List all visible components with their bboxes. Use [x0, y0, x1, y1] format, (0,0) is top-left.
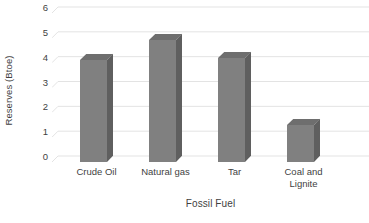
bar-front-face [80, 60, 107, 162]
bar-front-face [218, 58, 245, 162]
y-axis-tick-label: 3 [26, 78, 48, 88]
x-axis-category-label-line: Lignite [269, 178, 338, 190]
y-axis-title: Reserves (Btoe) [0, 0, 16, 180]
x-axis-category-label: Coal andLignite [269, 166, 338, 189]
y-axis-tick-label: 5 [26, 28, 48, 38]
x-axis-category-label: Natural gas [131, 166, 200, 178]
bar-side-face [176, 34, 182, 162]
x-axis-category-label-line: Natural gas [131, 166, 200, 178]
bar-front-face [287, 125, 314, 162]
y-axis-tick-label: 6 [26, 3, 48, 13]
bar-side-face [107, 54, 113, 162]
x-axis-category-labels: Crude OilNatural gasTarCoal andLignite [52, 166, 369, 198]
x-axis-category-label-line: Coal and [269, 166, 338, 178]
y-axis-tick-labels: 0123456 [26, 0, 48, 180]
bar[interactable] [149, 40, 176, 162]
bar-side-face [245, 51, 251, 162]
bar-side-face [314, 119, 320, 162]
x-axis-category-label: Tar [200, 166, 269, 178]
bar[interactable] [80, 60, 107, 162]
bar-front-face [149, 40, 176, 162]
bars-layer [52, 0, 369, 180]
y-axis-title-text: Reserves (Btoe) [3, 55, 14, 125]
y-axis-tick-label: 4 [26, 53, 48, 63]
y-axis-tick-label: 0 [26, 152, 48, 162]
x-axis-category-label-line: Tar [200, 166, 269, 178]
bar[interactable] [287, 125, 314, 162]
x-axis-category-label-line: Crude Oil [62, 166, 131, 178]
y-axis-tick-label: 1 [26, 127, 48, 137]
bar[interactable] [218, 58, 245, 162]
x-axis-title: Fossil Fuel [52, 198, 369, 209]
x-axis-category-label: Crude Oil [62, 166, 131, 178]
plot-area [52, 0, 369, 180]
bar-chart-figure: Reserves (Btoe) 0123456 Crude OilNatural… [0, 0, 369, 223]
y-axis-tick-label: 2 [26, 102, 48, 112]
